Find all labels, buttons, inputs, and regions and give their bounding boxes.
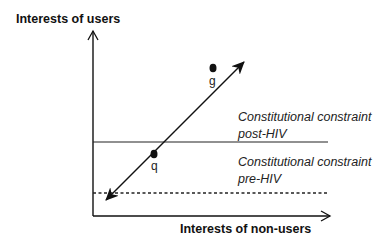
x-axis-label: Interests of non-users xyxy=(180,222,311,236)
post-hiv-constraint-label: Constitutional constraint post-HIV xyxy=(238,109,371,143)
y-axis-label: Interests of users xyxy=(16,12,120,26)
post-hiv-constraint-subtitle: post-HIV xyxy=(238,126,371,143)
point-g xyxy=(210,64,217,73)
interest-tradeoff-arrow-reverse xyxy=(106,131,175,200)
pre-hiv-constraint-title: Constitutional constraint xyxy=(238,154,371,171)
post-hiv-constraint-title: Constitutional constraint xyxy=(238,109,371,126)
pre-hiv-constraint-label: Constitutional constraint pre-HIV xyxy=(238,154,371,188)
pre-hiv-constraint-subtitle: pre-HIV xyxy=(238,171,371,188)
point-q-label: q xyxy=(151,159,158,173)
point-q xyxy=(151,150,158,159)
interest-tradeoff-arrow xyxy=(175,62,244,131)
point-g-label: g xyxy=(209,74,216,88)
